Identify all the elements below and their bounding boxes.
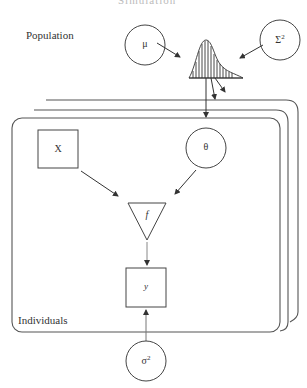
theta-symbol: θ (196, 141, 216, 152)
sample-arrow-back (215, 78, 225, 92)
sample-arrow-middle (211, 78, 215, 99)
mu-symbol: μ (135, 38, 155, 49)
Sigma-to-dist-arrow (240, 45, 263, 58)
Sigma-symbol: Σ2 (268, 33, 292, 45)
diagram-canvas (0, 0, 307, 388)
y-symbol: y (136, 281, 156, 291)
f-symbol: f (137, 209, 157, 220)
population-label: Population (26, 29, 74, 41)
mu-to-dist-arrow (157, 43, 180, 57)
x-symbol: X (48, 143, 68, 154)
sigma-symbol: σ2 (134, 354, 158, 366)
population-distribution (189, 40, 243, 78)
individuals-label: Individuals (18, 314, 68, 326)
